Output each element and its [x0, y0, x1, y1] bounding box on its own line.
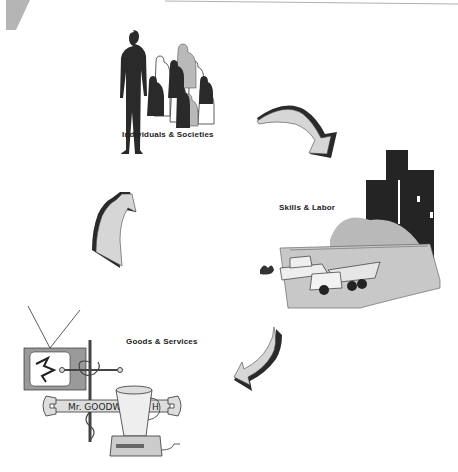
products-collage-icon: Mr. GOODW H [20, 302, 200, 462]
node-label-individuals: Individuals & Societies [122, 130, 214, 139]
node-label-goods: Goods & Services [126, 337, 198, 346]
arrow-goods-to-individuals [90, 190, 140, 275]
wrench-text: Mr. GOODW [68, 402, 121, 412]
wrench-text-end: H [152, 402, 159, 412]
people-crowd-icon [112, 22, 222, 132]
construction-city-icon [250, 150, 450, 310]
node-label-skills: Skills & Labor [279, 203, 335, 212]
arrow-skills-to-goods [230, 325, 300, 395]
